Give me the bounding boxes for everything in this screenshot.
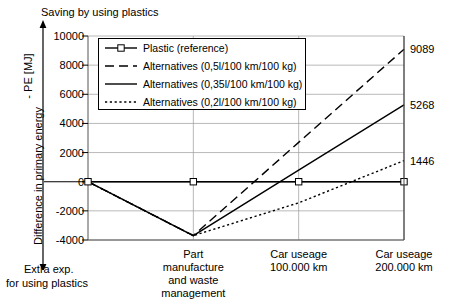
- series-end-label: 9089: [410, 43, 434, 55]
- legend-item[interactable]: Alternatives (0,35l/100 km/100 kg): [99, 75, 305, 93]
- x-tick-label-line: 100.000 km: [270, 261, 327, 274]
- x-tick-label-line: 200.000 km: [375, 261, 432, 274]
- x-tick-label: Car useage200.000 km: [375, 248, 432, 274]
- data-point-marker: [190, 179, 196, 185]
- data-point-marker: [85, 179, 91, 185]
- legend-item[interactable]: Alternatives (0,5l/100 km/100 kg): [99, 57, 305, 75]
- series-line-2: [88, 105, 404, 236]
- legend: Plastic (reference)Alternatives (0,5l/10…: [98, 38, 306, 110]
- legend-swatch-solid-markers-icon: [104, 42, 138, 54]
- x-tick-label-line: manufacture: [161, 261, 225, 274]
- legend-swatch-solid-icon: [104, 78, 138, 90]
- series-end-label: 5268: [410, 99, 434, 111]
- data-point-marker: [295, 179, 301, 185]
- series-end-label: 1446: [410, 155, 434, 167]
- legend-label: Alternatives (0,2l/100 km/100 kg): [143, 96, 297, 108]
- x-tick-label-line: and waste: [161, 274, 225, 287]
- legend-label: Plastic (reference): [143, 42, 228, 54]
- legend-swatch-dashed-icon: [104, 60, 138, 72]
- legend-label: Alternatives (0,35l/100 km/100 kg): [143, 78, 302, 90]
- x-tick-label-line: Part: [161, 248, 225, 261]
- legend-label: Alternatives (0,5l/100 km/100 kg): [143, 60, 297, 72]
- legend-item[interactable]: Plastic (reference): [99, 39, 305, 57]
- x-tick-label-line: management: [161, 287, 225, 300]
- x-tick-label: Partmanufactureand wastemanagement: [161, 248, 225, 300]
- legend-swatch-dotted-icon: [104, 96, 138, 108]
- legend-item[interactable]: Alternatives (0,2l/100 km/100 kg): [99, 93, 305, 111]
- x-tick-label: Car useage100.000 km: [270, 248, 327, 274]
- chart-figure: Saving by using plastics Difference in p…: [0, 0, 457, 304]
- x-tick-label-line: Car useage: [375, 248, 432, 261]
- series-line-3: [88, 161, 404, 236]
- x-tick-label-line: Car useage: [270, 248, 327, 261]
